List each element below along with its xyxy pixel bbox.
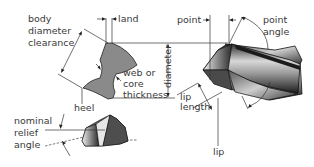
- body-diameter-clearance-label: body diameter clearance: [28, 13, 75, 48]
- diameter-label: diameter: [162, 45, 173, 88]
- point-angle-label: point angle: [263, 14, 290, 37]
- heel-label: heel: [74, 102, 94, 113]
- lip-label: lip: [213, 146, 224, 157]
- body-diameter-clearance-dimension: body diameter clearance: [28, 13, 108, 88]
- drill-diagram: land body diameter clearance web or core…: [0, 0, 314, 167]
- land-label: land: [118, 13, 139, 24]
- lip-length-label: lip length: [180, 91, 210, 112]
- relief-view: [82, 115, 128, 146]
- drill-body: [203, 44, 302, 100]
- point-label: point: [177, 14, 202, 25]
- lip-length-dimension: lip length: [177, 83, 222, 112]
- land-dimension: land: [97, 13, 139, 44]
